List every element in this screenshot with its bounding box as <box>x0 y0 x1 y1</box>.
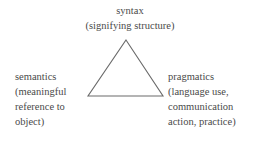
vertex-label-pragmatics-line-4: action, practice) <box>168 114 236 129</box>
vertex-label-semantics-line-1: semantics <box>15 69 66 84</box>
vertex-label-syntax: syntax (signifying structure) <box>0 3 260 33</box>
vertex-label-pragmatics-line-2: (language use, <box>168 84 236 99</box>
triangle-outline <box>88 40 163 96</box>
vertex-label-pragmatics-line-3: communication <box>168 99 236 114</box>
vertex-label-syntax-line-2: (signifying structure) <box>0 18 260 33</box>
vertex-label-syntax-line-1: syntax <box>0 3 260 18</box>
vertex-label-semantics: semantics (meaningful reference to objec… <box>15 69 66 129</box>
vertex-label-pragmatics: pragmatics (language use, communication … <box>168 69 236 129</box>
vertex-label-semantics-line-2: (meaningful <box>15 84 66 99</box>
vertex-label-semantics-line-4: object) <box>15 114 66 129</box>
semiotic-triangle-diagram: syntax (signifying structure) semantics … <box>0 0 260 144</box>
vertex-label-pragmatics-line-1: pragmatics <box>168 69 236 84</box>
vertex-label-semantics-line-3: reference to <box>15 99 66 114</box>
